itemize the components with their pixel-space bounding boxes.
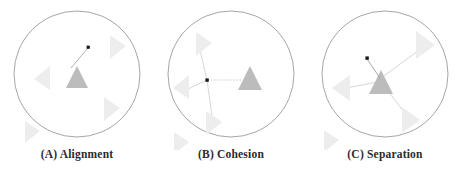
panel-separation: (C) Separation <box>308 0 462 175</box>
neighbor-boid <box>402 107 420 133</box>
focal-boid <box>66 66 88 88</box>
neighbor-boid <box>34 66 50 90</box>
panel-alignment: (A) Alignment <box>0 0 154 175</box>
cohesion-diagram <box>154 0 308 150</box>
alignment-diagram <box>0 0 154 150</box>
panel-caption-separation: (C) Separation <box>308 148 462 160</box>
flocking-rules-figure: (A) Alignment (B) Cohesion <box>0 0 462 175</box>
neighbor-boid <box>173 75 189 99</box>
panel-cohesion: (B) Cohesion <box>154 0 308 175</box>
focal-boid <box>238 66 262 90</box>
centroid-link-line <box>188 80 207 89</box>
neighbor-boid <box>332 75 350 101</box>
neighbor-boid <box>104 97 120 121</box>
perception-radius-circle <box>168 11 294 137</box>
steering-vector-dot <box>365 56 368 59</box>
centroid-dot <box>205 78 208 81</box>
neighbor-boid <box>196 32 212 56</box>
neighbor-boid <box>206 111 222 135</box>
steering-vector-line <box>367 59 380 78</box>
separation-diagram <box>308 0 462 150</box>
repulsion-vector-line <box>381 48 422 78</box>
panel-caption-alignment: (A) Alignment <box>0 148 154 160</box>
neighbor-boid <box>25 121 40 143</box>
perception-radius-circle <box>322 11 448 137</box>
neighbor-boid <box>324 130 339 150</box>
neighbor-boid <box>416 31 435 59</box>
focal-boid <box>369 70 393 94</box>
steering-vector-dot <box>87 46 90 49</box>
neighbor-boid <box>110 35 126 59</box>
steering-vector-line <box>71 48 88 68</box>
panel-caption-cohesion: (B) Cohesion <box>154 148 308 160</box>
